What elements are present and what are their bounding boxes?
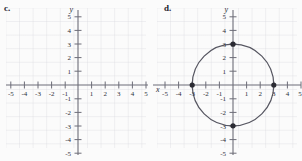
panel-d-plot: -5 -4 -3 -2 -1 1 2 3 4 5 5 4 3 2 1 -1 -2… bbox=[151, 0, 302, 161]
panel-c-xtick--4: -4 bbox=[21, 90, 27, 98]
panel-c-xtick-4: 4 bbox=[131, 90, 135, 98]
panel-d-ytick--1: -1 bbox=[220, 95, 226, 103]
panel-d-ytick-3: 3 bbox=[223, 41, 227, 49]
panel-c-ytick-5: 5 bbox=[68, 13, 72, 21]
panel-d-ytick-5: 5 bbox=[223, 13, 227, 21]
panel-d-xtick--3: -3 bbox=[189, 90, 195, 98]
panel-c-y-axis-label: y bbox=[68, 5, 73, 14]
panel-c-xtick-2: 2 bbox=[103, 90, 107, 98]
panel-d-ytick--5: -5 bbox=[220, 150, 226, 158]
panel-d-xtick-4: 4 bbox=[286, 90, 290, 98]
panel-c-ytick-3: 3 bbox=[68, 41, 72, 49]
panel-c-axes: -5 -4 -3 -2 -1 1 2 3 4 5 5 4 3 2 1 -1 -2… bbox=[0, 0, 151, 161]
panel-d-ytick-4: 4 bbox=[223, 27, 227, 35]
panel-d-point-0--3 bbox=[230, 123, 235, 128]
panel-c-xtick-5: 5 bbox=[144, 90, 148, 98]
panel-c-ytick--4: -4 bbox=[65, 136, 71, 144]
panel-c-xtick--3: -3 bbox=[35, 90, 41, 98]
panel-d-xtick-5: 5 bbox=[298, 90, 302, 98]
panel-c-xtick-1: 1 bbox=[90, 90, 94, 98]
panel-c-plot: -5 -4 -3 -2 -1 1 2 3 4 5 5 4 3 2 1 -1 -2… bbox=[0, 0, 151, 161]
panel-d-point--3-0 bbox=[190, 82, 195, 87]
figure-sheet: c. bbox=[0, 0, 302, 161]
panel-d-xtick-2: 2 bbox=[258, 90, 262, 98]
panel-c-ytick-2: 2 bbox=[68, 54, 72, 62]
panel-c-xtick-3: 3 bbox=[117, 90, 121, 98]
panel-d: d. bbox=[151, 0, 302, 161]
panel-d-ytick-1: 1 bbox=[223, 68, 227, 76]
panel-d-xtick--2: -2 bbox=[203, 90, 209, 98]
panel-c-ytick--3: -3 bbox=[65, 123, 71, 131]
panel-d-xtick-3: 3 bbox=[272, 90, 276, 98]
panel-d-y-axis-label: y bbox=[223, 5, 228, 14]
panel-d-xtick--5: -5 bbox=[162, 90, 168, 98]
panel-d-xtick--4: -4 bbox=[176, 90, 182, 98]
panel-c-xtick--2: -2 bbox=[49, 90, 55, 98]
panel-d-axes: -5 -4 -3 -2 -1 1 2 3 4 5 5 4 3 2 1 -1 -2… bbox=[151, 0, 302, 161]
panel-d-ytick--2: -2 bbox=[220, 109, 226, 117]
panel-d-point-0-3 bbox=[230, 42, 235, 47]
panel-d-ytick--4: -4 bbox=[220, 136, 226, 144]
panel-d-ytick-2: 2 bbox=[223, 54, 227, 62]
panel-d-ytick--3: -3 bbox=[220, 123, 226, 131]
panel-c-ytick-1: 1 bbox=[68, 68, 72, 76]
panel-c-ytick-4: 4 bbox=[68, 27, 72, 35]
panel-c: c. bbox=[0, 0, 151, 161]
panel-c-ytick--1: -1 bbox=[65, 95, 71, 103]
panel-c-xtick--5: -5 bbox=[8, 90, 14, 98]
panel-d-x-axis-label: x bbox=[155, 85, 160, 94]
panel-d-xtick-1: 1 bbox=[245, 90, 249, 98]
panel-c-ytick--2: -2 bbox=[65, 109, 71, 117]
panel-d-point-3-0 bbox=[271, 82, 276, 87]
panel-c-ytick--5: -5 bbox=[65, 150, 71, 158]
